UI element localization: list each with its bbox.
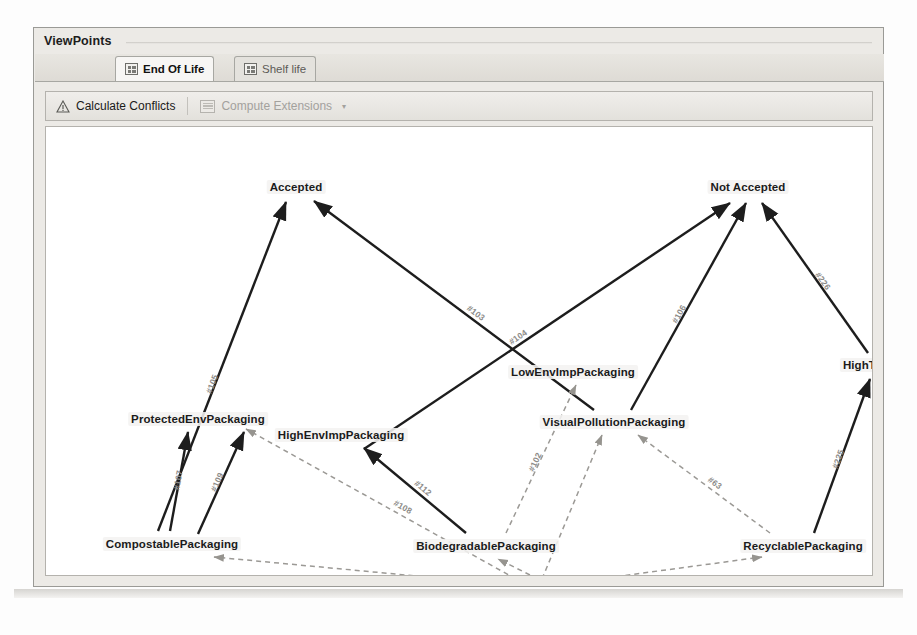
- calculate-conflicts-label: Calculate Conflicts: [76, 99, 175, 113]
- graph-node-accepted[interactable]: Accepted: [267, 180, 326, 194]
- viewpoints-panel: ViewPoints End Of Life Shelf life: [33, 27, 884, 587]
- tab-shelf-life[interactable]: Shelf life: [234, 56, 316, 81]
- chevron-down-icon[interactable]: ▾: [342, 102, 346, 111]
- graph-edge[interactable]: [638, 435, 770, 533]
- calculate-conflicts-button[interactable]: Calculate Conflicts: [46, 92, 185, 120]
- graph-edge[interactable]: [554, 557, 762, 576]
- warning-triangle-icon: [56, 100, 70, 113]
- title-divider: [126, 42, 872, 44]
- graph-node-hightaxes[interactable]: HighTaxes: [840, 358, 873, 372]
- toolbar-separator: [187, 97, 188, 115]
- graph-node-biodegradable[interactable]: BiodegradablePackaging: [413, 539, 559, 553]
- screen: ViewPoints End Of Life Shelf life: [0, 0, 917, 635]
- tab-strip: End Of Life Shelf life: [35, 54, 884, 82]
- window-bottom-shadow: [14, 589, 903, 598]
- toolbar: Calculate Conflicts Compute Extensions ▾: [45, 91, 873, 121]
- table-icon: [200, 100, 215, 113]
- grid-icon: [125, 63, 138, 75]
- tab-end-of-life[interactable]: End Of Life: [115, 56, 214, 81]
- graph-edge[interactable]: [364, 448, 466, 533]
- graph-node-compostable[interactable]: CompostablePackaging: [103, 537, 241, 551]
- grid-icon: [244, 63, 257, 75]
- panel-title: ViewPoints: [44, 34, 111, 48]
- tab-label: Shelf life: [262, 63, 306, 75]
- graph-canvas[interactable]: #105#103#104#106#226#225#107#109#112#108…: [45, 126, 873, 576]
- graph-node-protectedenv[interactable]: ProtectedEnvPackaging: [128, 412, 268, 426]
- graph-edge[interactable]: [246, 429, 516, 576]
- graph-edges: [46, 127, 873, 576]
- graph-node-highenv[interactable]: HighEnvImpPackaging: [275, 428, 408, 442]
- graph-node-recyclable[interactable]: RecyclablePackaging: [740, 539, 866, 553]
- compute-extensions-label: Compute Extensions: [221, 99, 332, 113]
- tab-label: End Of Life: [143, 63, 204, 75]
- graph-edge[interactable]: [542, 435, 602, 576]
- graph-edge[interactable]: [631, 203, 746, 410]
- graph-edge[interactable]: [498, 559, 538, 576]
- graph-node-notaccepted[interactable]: Not Accepted: [708, 180, 789, 194]
- graph-node-visualpollution[interactable]: VisualPollutionPackaging: [540, 415, 689, 429]
- graph-edge[interactable]: [214, 557, 512, 576]
- graph-edge[interactable]: [364, 203, 730, 449]
- compute-extensions-button[interactable]: Compute Extensions ▾: [190, 92, 356, 120]
- graph-node-lowenv[interactable]: LowEnvImpPackaging: [508, 365, 638, 379]
